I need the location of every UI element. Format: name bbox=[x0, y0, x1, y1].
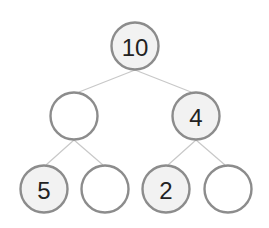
edge-left-left-left bbox=[46, 140, 74, 165]
node-right-label: 4 bbox=[189, 104, 202, 131]
tree-node-right-left: 2 bbox=[143, 166, 190, 213]
tree-node-left-right bbox=[82, 166, 129, 213]
edge-right-right-right bbox=[196, 140, 225, 165]
edge-left-left-right bbox=[74, 140, 103, 165]
node-left-left-label: 5 bbox=[37, 177, 50, 204]
tree-node-left-left: 5 bbox=[21, 166, 68, 213]
node-left-right-circle bbox=[82, 166, 129, 213]
edge-root-left bbox=[79, 70, 135, 92]
edge-root-right bbox=[135, 70, 191, 92]
node-root-label: 10 bbox=[122, 34, 149, 61]
edge-right-right-left bbox=[168, 140, 196, 165]
tree-node-left bbox=[51, 93, 98, 140]
tree-node-root: 10 bbox=[112, 23, 159, 70]
node-right-right-circle bbox=[205, 166, 252, 213]
node-left-circle bbox=[51, 93, 98, 140]
tree-node-right-right bbox=[205, 166, 252, 213]
binary-tree-diagram: 10 4 5 2 bbox=[0, 0, 269, 228]
tree-node-right: 4 bbox=[173, 93, 220, 140]
node-right-left-label: 2 bbox=[159, 177, 172, 204]
